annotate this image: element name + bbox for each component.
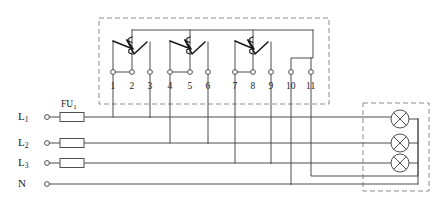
- supply-terminal-layer: [45, 115, 50, 187]
- supply-terminal-L1[interactable]: [45, 115, 50, 120]
- terminal-dot-3[interactable]: [148, 70, 153, 75]
- supply-label-L3: L3: [18, 157, 28, 170]
- fuse-body-L3: [60, 159, 84, 168]
- terminal-dot-8[interactable]: [251, 70, 256, 75]
- terminal-dot-11[interactable]: [309, 70, 314, 75]
- terminal-label-1: 1: [111, 82, 116, 92]
- fuse-layer: [60, 113, 84, 168]
- terminal-dot-5[interactable]: [188, 70, 193, 75]
- rail-to-terminal-10: [291, 30, 313, 72]
- terminal-label-2: 2: [130, 82, 135, 92]
- supply-terminal-L2[interactable]: [45, 141, 50, 146]
- supply-label-N: N: [18, 178, 26, 189]
- lamp-layer: [391, 110, 409, 172]
- supply-terminal-N[interactable]: [45, 182, 50, 187]
- circuit-diagram: 1234567891011L1L2L3NFU1: [0, 0, 440, 204]
- terminal-dot-10[interactable]: [289, 70, 294, 75]
- terminal-label-6: 6: [206, 82, 211, 92]
- fuse-body-L2: [60, 139, 84, 148]
- fuse-label-FU1: FU1: [61, 100, 77, 111]
- terminal-label-10: 10: [286, 82, 296, 92]
- terminal-label-7: 7: [233, 82, 238, 92]
- terminal-label-11: 11: [306, 82, 315, 92]
- terminal-dot-9[interactable]: [269, 70, 274, 75]
- fuse-body-L1: [60, 113, 84, 122]
- terminal-label-4: 4: [168, 82, 173, 92]
- terminal-label-8: 8: [251, 82, 256, 92]
- terminal-dot-1[interactable]: [111, 70, 116, 75]
- supply-terminal-L3[interactable]: [45, 161, 50, 166]
- terminal-layer: [111, 70, 314, 75]
- terminal-dot-2[interactable]: [130, 70, 135, 75]
- switch-layer: [113, 36, 268, 55]
- terminal-dot-4[interactable]: [168, 70, 173, 75]
- terminal-dot-7[interactable]: [233, 70, 238, 75]
- terminal-dot-6[interactable]: [206, 70, 211, 75]
- supply-label-L1: L1: [18, 111, 28, 124]
- terminal-label-5: 5: [188, 82, 193, 92]
- terminal-label-9: 9: [269, 82, 274, 92]
- terminal-label-3: 3: [148, 82, 153, 92]
- supply-label-L2: L2: [18, 137, 28, 150]
